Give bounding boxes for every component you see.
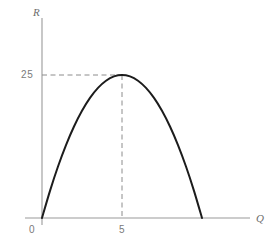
- x-axis-label: Q: [256, 212, 264, 224]
- y-axis-label: R: [33, 6, 40, 18]
- y-tick-label-25: 25: [21, 69, 33, 80]
- x-tick-label-5: 5: [119, 224, 125, 235]
- revenue-curve-figure: R Q 25 5 0: [0, 0, 274, 251]
- origin-tick-label-0: 0: [29, 224, 35, 235]
- chart-canvas: [0, 0, 274, 251]
